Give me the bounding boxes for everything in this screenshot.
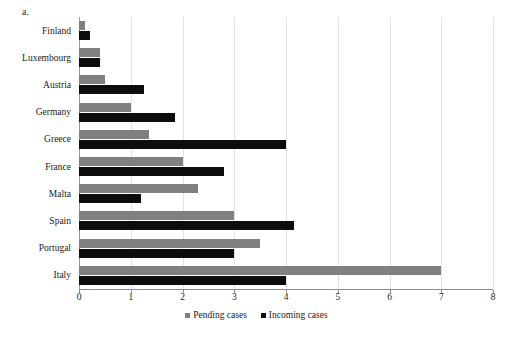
bar-italy-incoming <box>79 276 286 285</box>
x-tick-label-2: 2 <box>180 292 185 302</box>
bar-austria-pending <box>79 75 105 84</box>
x-tick-label-3: 3 <box>232 292 237 302</box>
bar-row <box>79 235 493 262</box>
bar-row <box>79 207 493 234</box>
bar-row <box>79 126 493 153</box>
x-tick-label-0: 0 <box>77 292 82 302</box>
category-label-germany: Germany <box>36 107 71 117</box>
bar-rows <box>79 17 493 289</box>
bar-row <box>79 262 493 289</box>
legend-label: Pending cases <box>193 310 247 320</box>
category-axis-labels: FinlandLuxembourgAustriaGermanyGreeceFra… <box>0 17 74 289</box>
figure-panel-a: a. FinlandLuxembourgAustriaGermanyGreece… <box>0 0 513 337</box>
x-axis-ticks: 012345678 <box>79 290 493 306</box>
bar-portugal-incoming <box>79 249 234 258</box>
category-label-italy: Italy <box>54 270 71 280</box>
bar-row <box>79 17 493 44</box>
category-label-austria: Austria <box>43 80 71 90</box>
category-label-spain: Spain <box>49 216 71 226</box>
legend-swatch-icon <box>185 313 190 318</box>
bar-italy-pending <box>79 266 441 275</box>
bar-finland-incoming <box>79 31 90 40</box>
legend-swatch-icon <box>261 313 266 318</box>
bar-spain-pending <box>79 211 234 220</box>
category-label-malta: Malta <box>49 189 71 199</box>
category-label-portugal: Portugal <box>39 243 71 253</box>
category-label-finland: Finland <box>42 26 71 36</box>
legend-label: Incoming cases <box>269 310 328 320</box>
x-tick-label-7: 7 <box>439 292 444 302</box>
bar-luxembourg-pending <box>79 48 100 57</box>
bar-greece-incoming <box>79 140 286 149</box>
x-tick-label-8: 8 <box>491 292 496 302</box>
x-tick-label-4: 4 <box>284 292 289 302</box>
bar-greece-pending <box>79 130 149 139</box>
bar-row <box>79 71 493 98</box>
bar-france-incoming <box>79 167 224 176</box>
bar-germany-incoming <box>79 113 175 122</box>
bar-germany-pending <box>79 103 131 112</box>
bar-malta-pending <box>79 184 198 193</box>
chart-legend: Pending casesIncoming cases <box>0 310 513 320</box>
bar-row <box>79 99 493 126</box>
bar-row <box>79 44 493 71</box>
bar-spain-incoming <box>79 221 294 230</box>
bar-france-pending <box>79 157 183 166</box>
plot-area <box>79 17 493 289</box>
panel-label: a. <box>22 6 29 17</box>
bar-portugal-pending <box>79 239 260 248</box>
x-tick-label-5: 5 <box>335 292 340 302</box>
legend-item-pending[interactable]: Pending cases <box>185 310 247 320</box>
legend-item-incoming[interactable]: Incoming cases <box>261 310 328 320</box>
category-label-luxembourg: Luxembourg <box>22 53 71 63</box>
x-tick-label-1: 1 <box>128 292 133 302</box>
bar-row <box>79 153 493 180</box>
bar-malta-incoming <box>79 194 141 203</box>
bar-luxembourg-incoming <box>79 58 100 67</box>
category-label-france: France <box>45 162 71 172</box>
x-tick-label-6: 6 <box>387 292 392 302</box>
category-label-greece: Greece <box>44 134 71 144</box>
bar-austria-incoming <box>79 85 144 94</box>
bar-row <box>79 180 493 207</box>
gridline-8 <box>493 17 494 289</box>
bar-finland-pending <box>79 21 85 30</box>
